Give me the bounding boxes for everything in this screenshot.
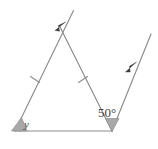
right-parallel-ray-line — [112, 34, 151, 131]
triangle-left-side-line — [15, 11, 74, 132]
angle-label-y: y — [23, 118, 29, 130]
geometry-figure: 50° y — [0, 0, 158, 149]
angle-marker-50-wedge — [106, 119, 120, 132]
left-side-tick-mark — [31, 77, 40, 83]
right-ray-arrowhead-icon — [126, 62, 137, 72]
geometry-canvas: 50° y — [0, 0, 158, 149]
angle-label-50-degrees: 50° — [98, 105, 116, 120]
